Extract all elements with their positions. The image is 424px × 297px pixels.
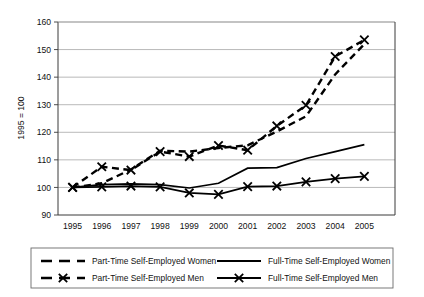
x-tick-labels-group: 1995199619971998199920002001200220032004… xyxy=(63,221,374,231)
legend-entry-2: Part-Time Self-Employed Men xyxy=(41,273,204,283)
x-tick-label-2000: 2000 xyxy=(209,221,228,231)
y-tick-label-120: 120 xyxy=(37,127,52,137)
x-tick-label-1995: 1995 xyxy=(63,221,82,231)
chart-container: 90100110120130140150160 1995199619971998… xyxy=(0,0,424,297)
economic-index-line-chart: 90100110120130140150160 1995199619971998… xyxy=(0,0,424,297)
x-tick-label-2003: 2003 xyxy=(296,221,315,231)
legend-label-1: Full-Time Self-Employed Women xyxy=(268,256,391,266)
x-tick-label-1996: 1996 xyxy=(92,221,111,231)
y-tick-label-160: 160 xyxy=(37,17,52,27)
y-tick-label-110: 110 xyxy=(37,155,51,165)
x-tick-label-1997: 1997 xyxy=(121,221,140,231)
y-tick-label-150: 150 xyxy=(37,45,52,55)
x-tick-label-2004: 2004 xyxy=(326,221,345,231)
legend-label-0: Part-Time Self-Employed Women xyxy=(92,256,217,266)
y-tick-label-140: 140 xyxy=(37,72,52,82)
legend-label-3: Full-Time Self-Employed Men xyxy=(268,273,378,283)
y-tick-label-100: 100 xyxy=(37,183,52,193)
x-tick-label-1998: 1998 xyxy=(151,221,170,231)
x-tick-label-2002: 2002 xyxy=(267,221,286,231)
y-tick-label-90: 90 xyxy=(41,210,51,220)
y-axis-title: 1995 = 100 xyxy=(16,96,26,139)
x-tick-label-1999: 1999 xyxy=(180,221,199,231)
y-tick-label-130: 130 xyxy=(37,100,52,110)
legend-label-2: Part-Time Self-Employed Men xyxy=(92,273,204,283)
x-tick-label-2001: 2001 xyxy=(238,221,257,231)
x-tick-label-2005: 2005 xyxy=(355,221,374,231)
